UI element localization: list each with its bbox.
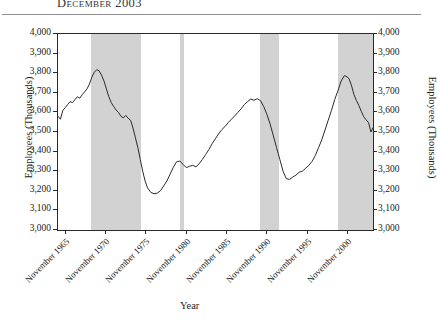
y-tick-mark-right — [373, 151, 377, 152]
x-tick-mark — [307, 230, 308, 234]
y-tick-label-right: 3,800 — [378, 67, 424, 77]
y-tick-mark-right — [373, 229, 377, 230]
y-tick-label-right: 3,400 — [378, 146, 424, 156]
x-tick-mark — [145, 230, 146, 234]
x-tick-mark — [105, 230, 106, 234]
y-tick-mark-right — [373, 53, 377, 54]
y-tick-mark-right — [373, 209, 377, 210]
y-tick-label-right: 3,500 — [378, 126, 424, 136]
y-tick-label-left: 3,000 — [5, 224, 51, 234]
series-line-chart — [58, 34, 373, 230]
y-tick-mark-right — [373, 33, 377, 34]
y-tick-label-left: 3,600 — [5, 106, 51, 116]
y-tick-label-right: 3,600 — [378, 106, 424, 116]
y-tick-mark-right — [373, 72, 377, 73]
x-tick-mark — [266, 230, 267, 234]
y-tick-mark-left — [53, 72, 57, 73]
y-tick-label-right: 3,300 — [378, 165, 424, 175]
x-tick-mark — [65, 230, 66, 234]
y-tick-label-right: 3,200 — [378, 185, 424, 195]
y-tick-label-right: 3,700 — [378, 87, 424, 97]
y-tick-label-left: 3,300 — [5, 165, 51, 175]
chart-title: December 2003 — [57, 0, 377, 11]
y-tick-mark-left — [53, 131, 57, 132]
y-tick-mark-left — [53, 33, 57, 34]
plot-area — [57, 33, 374, 231]
y-tick-mark-left — [53, 229, 57, 230]
y-tick-label-left: 3,700 — [5, 87, 51, 97]
y-tick-label-left: 3,800 — [5, 67, 51, 77]
title-divider — [2, 14, 421, 15]
y-axis-title-right: Employees (Thousands) — [427, 48, 438, 208]
y-tick-mark-right — [373, 170, 377, 171]
x-tick-mark — [226, 230, 227, 234]
y-tick-label-left: 4,000 — [5, 28, 51, 38]
y-tick-mark-left — [53, 170, 57, 171]
y-tick-mark-right — [373, 92, 377, 93]
y-tick-mark-left — [53, 151, 57, 152]
y-tick-mark-left — [53, 209, 57, 210]
employment-series-line — [58, 70, 373, 194]
y-tick-label-right: 3,000 — [378, 224, 424, 234]
y-tick-label-right: 3,900 — [378, 48, 424, 58]
y-tick-label-left: 3,500 — [5, 126, 51, 136]
y-tick-label-left: 3,900 — [5, 48, 51, 58]
y-tick-mark-left — [53, 53, 57, 54]
x-tick-mark — [347, 230, 348, 234]
y-tick-label-left: 3,200 — [5, 185, 51, 195]
y-tick-label-right: 4,000 — [378, 28, 424, 38]
y-tick-mark-left — [53, 92, 57, 93]
y-tick-mark-right — [373, 111, 377, 112]
y-tick-label-right: 3,100 — [378, 204, 424, 214]
y-tick-mark-left — [53, 111, 57, 112]
x-tick-mark — [186, 230, 187, 234]
y-tick-mark-right — [373, 131, 377, 132]
y-tick-label-left: 3,400 — [5, 146, 51, 156]
y-tick-mark-left — [53, 190, 57, 191]
y-tick-mark-right — [373, 190, 377, 191]
y-tick-label-left: 3,100 — [5, 204, 51, 214]
